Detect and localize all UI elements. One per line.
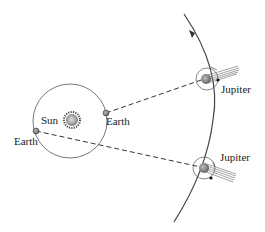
earth-2-icon [33,128,39,134]
moon-1-icon [216,78,219,81]
earth-jupiter-orbit-diagram: Sun Earth Earth Jupiter Jupi [0,0,265,232]
sun-label: Sun [41,114,59,126]
jupiter-orbit [174,14,215,222]
earth-1-label: Earth [106,115,130,127]
earth-2-label: Earth [14,135,38,147]
sun-icon [64,112,80,128]
sightline-1 [106,78,207,113]
jupiter-1-label: Jupiter [221,83,251,95]
sightline-2 [36,131,205,168]
jupiter-2-label: Jupiter [220,151,250,163]
moon-2-icon [209,176,212,179]
